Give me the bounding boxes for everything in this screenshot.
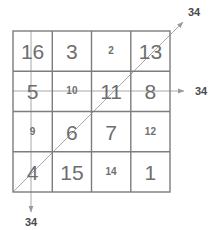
cell-r3c4: 12 — [145, 127, 156, 137]
row-sum-label: 34 — [195, 86, 207, 97]
cell-r1c1: 16 — [21, 41, 44, 62]
cell-r4c2: 15 — [60, 161, 83, 182]
magic-square-figure: 16 3 2 13 5 10 11 8 9 6 7 12 4 15 14 1 3… — [0, 0, 217, 230]
diagonal-sum-label: 34 — [188, 7, 200, 18]
cell-r3c3: 7 — [105, 121, 117, 142]
column-sum-label: 34 — [25, 217, 37, 228]
cell-r2c3: 11 — [100, 81, 122, 102]
cell-r3c1: 9 — [30, 127, 36, 137]
cell-r2c2: 10 — [66, 86, 77, 96]
cell-r4c1: 4 — [27, 161, 39, 182]
cell-r3c2: 6 — [66, 121, 78, 142]
figure-vector-layer — [0, 0, 217, 230]
cell-r2c1: 5 — [27, 81, 39, 102]
cell-r4c4: 1 — [145, 161, 157, 182]
cell-r4c3: 14 — [106, 167, 117, 177]
cell-r2c4: 8 — [145, 81, 157, 102]
cell-r1c3: 2 — [108, 46, 114, 56]
cell-r1c4: 13 — [139, 41, 162, 62]
cell-r1c2: 3 — [66, 41, 78, 62]
